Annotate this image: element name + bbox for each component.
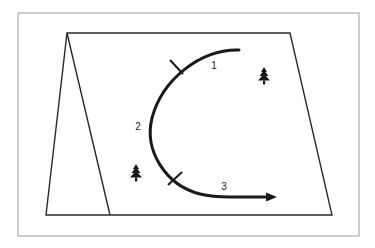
- diagram-frame: [18, 13, 359, 236]
- pine-tree-icon: [257, 67, 271, 85]
- pine-tree-icon: [129, 164, 143, 182]
- segment-label-2: 2: [135, 122, 141, 132]
- route-diagram: [0, 0, 375, 248]
- map-panel-fold-line: [67, 33, 110, 215]
- segment-tick-1-2: [170, 60, 183, 74]
- segment-label-1: 1: [211, 61, 217, 71]
- segment-label-3: 3: [221, 182, 227, 192]
- route-path: [150, 50, 268, 197]
- route-arrowhead-icon: [266, 193, 277, 202]
